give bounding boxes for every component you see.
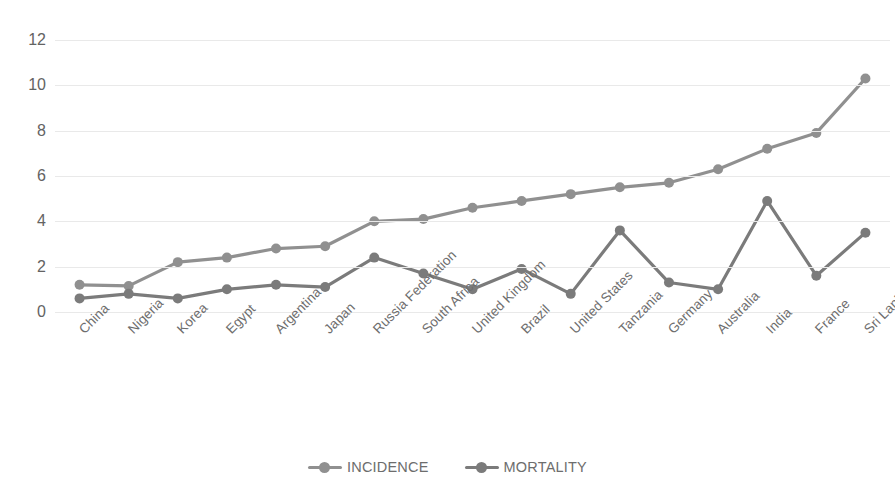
gridline-2 — [55, 267, 890, 268]
y-axis: 024681012 — [0, 40, 46, 312]
data-point[interactable] — [762, 144, 772, 154]
data-point[interactable] — [762, 196, 772, 206]
data-point[interactable] — [517, 196, 527, 206]
y-tick-label-2: 2 — [6, 259, 46, 275]
data-point[interactable] — [468, 203, 478, 213]
legend-dot — [476, 462, 487, 473]
y-tick-label-12: 12 — [6, 32, 46, 48]
data-point[interactable] — [320, 282, 330, 292]
y-tick-label-0: 0 — [6, 304, 46, 320]
gridline-12 — [55, 40, 890, 41]
legend-marker-icon — [308, 460, 342, 474]
chart-legend: INCIDENCEMORTALITY — [0, 452, 895, 482]
data-point[interactable] — [811, 128, 821, 138]
gridline-8 — [55, 131, 890, 132]
legend-label: INCIDENCE — [347, 459, 429, 475]
data-point[interactable] — [566, 289, 576, 299]
data-point[interactable] — [124, 289, 134, 299]
data-point[interactable] — [222, 284, 232, 294]
data-point[interactable] — [173, 257, 183, 267]
gridline-4 — [55, 221, 890, 222]
data-point[interactable] — [271, 244, 281, 254]
y-tick-label-8: 8 — [6, 123, 46, 139]
legend-marker-icon — [465, 460, 499, 474]
data-point[interactable] — [173, 293, 183, 303]
data-point[interactable] — [713, 164, 723, 174]
legend-dot — [319, 462, 330, 473]
data-point[interactable] — [320, 241, 330, 251]
data-point[interactable] — [75, 293, 85, 303]
series-incidence — [75, 74, 871, 291]
y-tick-label-6: 6 — [6, 168, 46, 184]
data-point[interactable] — [369, 253, 379, 263]
data-point[interactable] — [75, 280, 85, 290]
data-point[interactable] — [860, 74, 870, 84]
data-point[interactable] — [615, 225, 625, 235]
legend-label: MORTALITY — [504, 459, 587, 475]
data-point[interactable] — [271, 280, 281, 290]
gridline-10 — [55, 85, 890, 86]
data-point[interactable] — [222, 253, 232, 263]
legend-item[interactable]: MORTALITY — [465, 459, 587, 475]
y-tick-label-10: 10 — [6, 77, 46, 93]
line-chart: 024681012 ChinaNigeriaKoreaEgyptArgentin… — [0, 0, 895, 491]
data-point[interactable] — [811, 271, 821, 281]
x-axis: ChinaNigeriaKoreaEgyptArgentinaJapanRuss… — [55, 312, 890, 432]
data-point[interactable] — [566, 189, 576, 199]
series-line — [80, 79, 866, 286]
plot-area — [55, 40, 890, 312]
gridline-6 — [55, 176, 890, 177]
data-point[interactable] — [664, 178, 674, 188]
data-point[interactable] — [418, 214, 428, 224]
data-point[interactable] — [860, 228, 870, 238]
data-point[interactable] — [713, 284, 723, 294]
data-point[interactable] — [615, 182, 625, 192]
legend-item[interactable]: INCIDENCE — [308, 459, 429, 475]
y-tick-label-4: 4 — [6, 213, 46, 229]
data-point[interactable] — [664, 278, 674, 288]
